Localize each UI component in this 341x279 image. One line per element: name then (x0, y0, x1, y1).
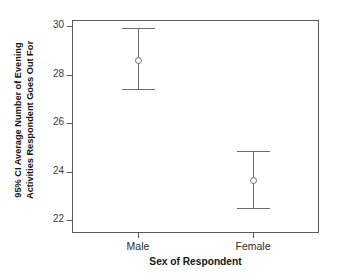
x-tick-mark-female (253, 233, 254, 238)
error-bar-male-lower-cap (122, 89, 155, 90)
x-axis-title: Sex of Respondent (72, 256, 319, 267)
y-axis-title-line-2: Activities Respondent Goes Out For (24, 41, 37, 199)
y-tick-label-28: 28 (53, 68, 64, 79)
error-bar-female-lower-cap (237, 208, 270, 209)
y-axis-title-line-1: 95% CI Average Number of Evening (12, 42, 25, 197)
y-tick-24: 24 (0, 172, 72, 173)
data-point-female-mean (250, 177, 257, 184)
y-tick-label-30: 30 (53, 19, 64, 30)
y-tick-30: 30 (0, 26, 72, 27)
y-tick-label-24: 24 (53, 165, 64, 176)
y-tick-22: 22 (0, 220, 72, 221)
y-tick-label-22: 22 (53, 213, 64, 224)
x-tick-label-female: Female (208, 240, 298, 252)
y-tick-26: 26 (0, 123, 72, 124)
x-tick-male: Male (138, 233, 139, 234)
y-tick-label-26: 26 (53, 116, 64, 127)
chart-figure: 95% CI Average Number of Evening Activit… (0, 0, 341, 279)
x-tick-label-male: Male (93, 240, 183, 252)
x-tick-female: Female (253, 233, 254, 234)
data-point-male-mean (135, 57, 142, 64)
y-axis-title: 95% CI Average Number of Evening Activit… (0, 0, 46, 240)
y-tick-28: 28 (0, 75, 72, 76)
plot-area (72, 20, 319, 233)
x-tick-mark-male (138, 233, 139, 238)
